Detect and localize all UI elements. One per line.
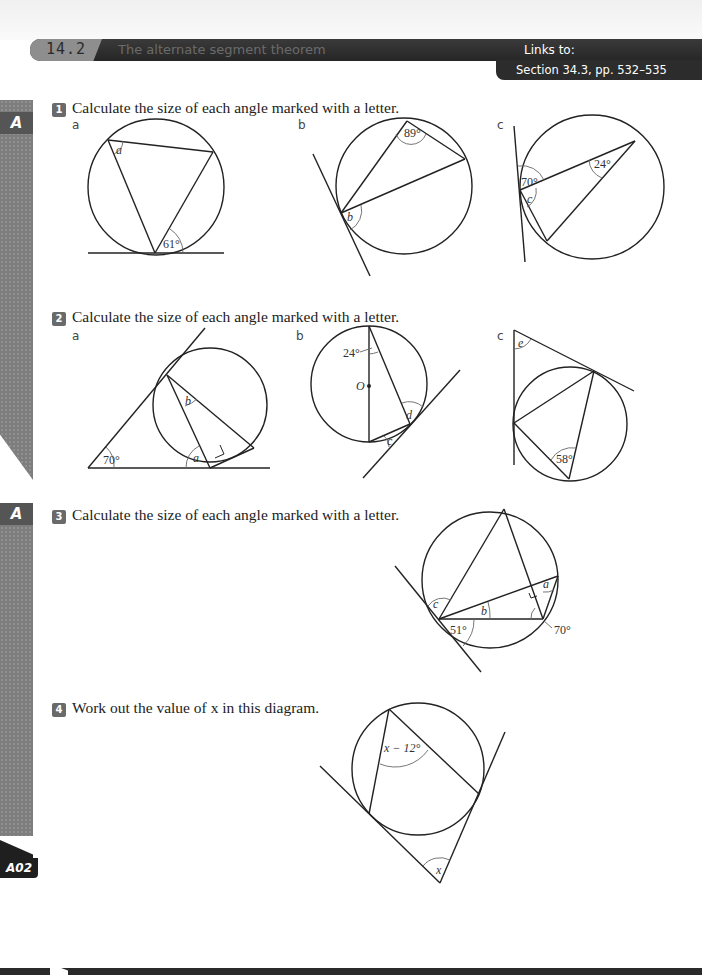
question-4-diagram: x − 12° x	[0, 0, 702, 975]
svg-text:x: x	[435, 863, 442, 877]
svg-text:x − 12°: x − 12°	[383, 741, 420, 755]
footer-bar	[0, 968, 702, 975]
